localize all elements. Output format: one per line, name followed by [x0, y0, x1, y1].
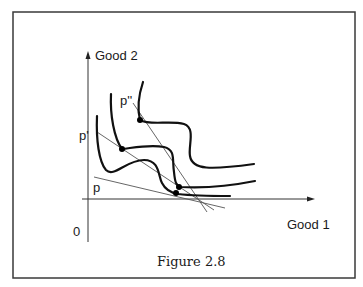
price-label-p-double-prime: p'': [120, 93, 132, 108]
y-axis-arrow-icon: [86, 51, 91, 59]
figure-caption: Figure 2.8: [157, 254, 226, 269]
indifference-curve-high: [139, 82, 254, 168]
price-label-p: p: [93, 180, 100, 195]
figure-2-8-diagram: Good 2 Good 1 0 p p' p'' Figure 2.8: [0, 0, 363, 287]
y-axis-label: Good 2: [95, 48, 138, 63]
tangency-point-p-double-prime: [137, 117, 143, 123]
indifference-curve-mid: [111, 94, 255, 187]
tangency-point-p-prime-low: [176, 184, 182, 190]
price-line-p: [94, 177, 225, 208]
origin-label: 0: [73, 224, 80, 239]
tangency-point-p: [173, 190, 179, 196]
indifference-curve-low: [97, 116, 230, 196]
figure-frame: [13, 12, 355, 278]
x-axis-arrow-icon: [307, 197, 315, 202]
price-label-p-prime: p': [79, 128, 89, 143]
x-axis-label: Good 1: [287, 217, 330, 232]
tangency-point-p-prime-mid: [119, 146, 125, 152]
